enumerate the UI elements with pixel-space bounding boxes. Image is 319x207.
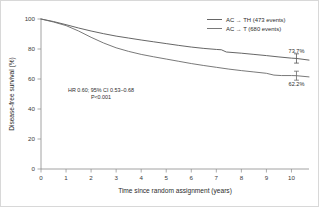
hr-annotation-line1: HR 0.60; 95% CI 0.53–0.68 (68, 87, 134, 93)
y-tick-label-40: 40 (28, 105, 35, 112)
y-tick-label-100: 100 (25, 15, 36, 22)
x-tick-label-4: 4 (139, 174, 143, 181)
x-tick-label-3: 3 (114, 174, 118, 181)
y-tick-label-80: 80 (28, 45, 35, 52)
x-tick-label-9: 9 (265, 174, 269, 181)
x-tick-label-5: 5 (165, 174, 169, 181)
x-tick-label-0: 0 (39, 174, 43, 181)
kaplan-meier-survival-chart: 0 20 40 60 80 100 Disease-free survival … (0, 0, 319, 207)
y-axis-ticks (38, 19, 42, 169)
legend-label-ac-th: AC → TH (473 events) (226, 17, 286, 23)
y-tick-label-20: 20 (28, 135, 35, 142)
x-tick-label-7: 7 (215, 174, 219, 181)
x-tick-label-6: 6 (190, 174, 194, 181)
chart-legend: AC → TH (473 events) AC → T (680 events) (207, 17, 286, 32)
x-tick-label-1: 1 (64, 174, 68, 181)
legend-label-ac-t: AC → T (680 events) (226, 26, 281, 32)
chart-canvas: 0 20 40 60 80 100 Disease-free survival … (1, 1, 319, 207)
y-tick-label-60: 60 (28, 75, 35, 82)
endpoint-label-ac-th: 73.7% (289, 48, 305, 54)
endpoint-label-ac-t: 62.2% (289, 81, 305, 87)
hazard-ratio-annotation: HR 0.60; 95% CI 0.53–0.68 P<0.001 (68, 87, 134, 100)
y-axis-tick-labels: 0 20 40 60 80 100 (25, 15, 36, 172)
x-tick-label-2: 2 (89, 174, 93, 181)
y-tick-label-0: 0 (32, 165, 36, 172)
x-tick-label-8: 8 (240, 174, 244, 181)
x-axis-tick-labels: 012345678910 (39, 174, 295, 181)
hr-annotation-line2: P<0.001 (91, 94, 111, 100)
y-axis-title: Disease-free survival (%) (8, 57, 16, 131)
x-axis-ticks (41, 169, 291, 173)
x-tick-label-10: 10 (288, 174, 295, 181)
x-axis-title: Time since random assignment (years) (118, 187, 232, 195)
